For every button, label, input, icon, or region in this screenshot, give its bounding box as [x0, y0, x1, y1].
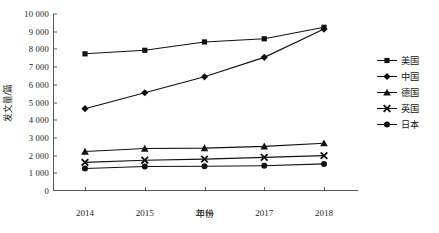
series-marker [201, 73, 208, 80]
y-axis-tick-label: 4 000 [29, 115, 49, 125]
legend-label: 德国 [401, 87, 419, 98]
data-series [81, 25, 327, 112]
legend-label: 美国 [401, 55, 419, 66]
legend-label: 日本 [401, 119, 419, 130]
series-layer [53, 14, 358, 191]
legend-item[interactable]: 英国 [376, 103, 419, 114]
legend-label: 英国 [401, 103, 419, 114]
y-axis-tick-label: 2 000 [29, 151, 49, 161]
legend-label: 中国 [401, 71, 419, 82]
series-marker [202, 39, 207, 44]
y-axis-tick-mark [53, 14, 57, 15]
chart-legend: 美国中国德国英国日本 [376, 55, 419, 130]
y-axis-title: 发文量/篇 [1, 68, 13, 138]
x-axis-tick-mark [145, 187, 146, 191]
y-axis-tick-label: 5 000 [29, 98, 49, 108]
y-axis-tick-mark [53, 67, 57, 68]
y-axis-tick-mark [53, 31, 57, 32]
x-axis-title: 年份 [196, 207, 214, 220]
y-axis-tick-mark [53, 120, 57, 121]
series-marker [141, 89, 148, 96]
y-axis-tick-label: 1 000 [29, 168, 49, 178]
y-axis-tick-mark [53, 84, 57, 85]
series-marker [82, 166, 88, 172]
legend-triangle-icon [376, 87, 398, 98]
x-axis-tick-label: 2014 [76, 208, 94, 218]
legend-item[interactable]: 日本 [376, 119, 419, 130]
x-axis-tick-mark [205, 187, 206, 191]
series-marker [321, 161, 327, 167]
y-axis-tick-label: 3 000 [29, 133, 49, 143]
data-series [82, 161, 327, 172]
x-axis-tick-label: 2017 [255, 208, 273, 218]
y-axis-tick-mark [53, 155, 57, 156]
legend-square-icon [376, 55, 398, 66]
y-axis-tick-label: 8 000 [29, 44, 49, 54]
plot-area: 20142015201620172018 [53, 14, 358, 191]
y-axis-tick-mark [53, 173, 57, 174]
x-axis-tick-label: 2018 [315, 208, 333, 218]
series-marker [142, 48, 147, 53]
series-marker [261, 54, 268, 61]
y-axis-tick-label: 10 000 [24, 9, 49, 19]
line-chart-figure: 01 0002 0003 0004 0005 0006 0007 0008 00… [0, 0, 439, 233]
series-marker [202, 163, 208, 169]
legend-item[interactable]: 德国 [376, 87, 419, 98]
series-marker [262, 36, 267, 41]
y-axis-tick-label: 7 000 [29, 62, 49, 72]
x-axis-tick-mark [85, 187, 86, 191]
series-marker [142, 164, 148, 170]
x-axis-tick-label: 2015 [136, 208, 154, 218]
data-series [81, 139, 328, 154]
legend-circle-icon [376, 119, 398, 130]
y-axis-tick-mark [53, 102, 57, 103]
y-axis-tick-mark [53, 137, 57, 138]
series-marker [261, 163, 267, 169]
data-series [82, 25, 326, 57]
y-axis-tick-mark [53, 49, 57, 50]
y-axis-tick-label: 0 [45, 186, 50, 196]
y-axis-tick-label: 6 000 [29, 80, 49, 90]
legend-diamond-icon [376, 71, 398, 82]
x-axis-tick-mark [264, 187, 265, 191]
legend-item[interactable]: 中国 [376, 71, 419, 82]
legend-item[interactable]: 美国 [376, 55, 419, 66]
series-marker [82, 51, 87, 56]
series-marker [81, 105, 88, 112]
x-axis-tick-mark [324, 187, 325, 191]
y-axis-tick-label: 9 000 [29, 27, 49, 37]
legend-cross-icon [376, 103, 398, 114]
